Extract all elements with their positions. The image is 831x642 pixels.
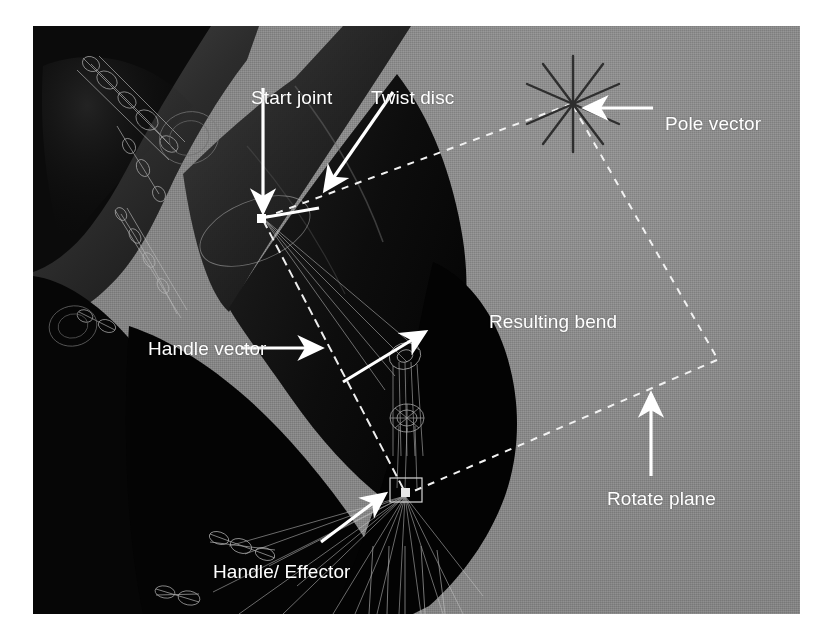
start-joint-box xyxy=(257,214,266,223)
viewport-3d-render[interactable]: Start joint Twist disc Pole vector Resul… xyxy=(33,26,800,614)
label-rotate-plane: Rotate plane xyxy=(607,489,716,508)
label-twist-disc: Twist disc xyxy=(371,88,454,107)
label-pole-vector: Pole vector xyxy=(665,114,761,133)
effector-center xyxy=(401,488,410,497)
label-handle-effector: Handle/ Effector xyxy=(213,562,351,581)
label-start-joint: Start joint xyxy=(251,88,332,107)
pole-vector-locator[interactable] xyxy=(527,56,619,152)
character-model xyxy=(33,26,517,614)
label-handle-vector: Handle vector xyxy=(148,339,267,358)
page-root: Start joint Twist disc Pole vector Resul… xyxy=(0,0,831,642)
label-resulting-bend: Resulting bend xyxy=(489,312,617,331)
